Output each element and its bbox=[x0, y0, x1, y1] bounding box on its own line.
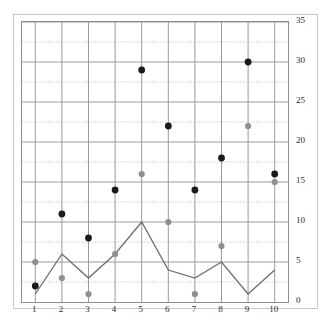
data-point-black bbox=[218, 155, 225, 162]
y-tick-label: 10 bbox=[296, 216, 305, 225]
data-point-gray bbox=[32, 259, 38, 265]
data-point-black bbox=[192, 187, 199, 194]
series-gray-markers-group bbox=[32, 123, 278, 297]
y-tick-label: 5 bbox=[296, 256, 301, 265]
data-point-gray bbox=[165, 219, 171, 225]
data-point-gray bbox=[139, 171, 145, 177]
data-point-black bbox=[85, 235, 92, 242]
data-point-black bbox=[59, 211, 66, 218]
data-point-black bbox=[165, 123, 172, 130]
y-tick-label: 30 bbox=[296, 56, 305, 65]
data-point-gray bbox=[218, 243, 224, 249]
data-point-black bbox=[245, 59, 252, 66]
data-point-gray bbox=[272, 179, 278, 185]
x-tick-label: 7 bbox=[186, 305, 202, 314]
data-point-gray bbox=[85, 291, 91, 297]
data-point-gray bbox=[245, 123, 251, 129]
x-tick-label: 6 bbox=[159, 305, 175, 314]
x-tick-label: 3 bbox=[80, 305, 96, 314]
y-tick-label: 20 bbox=[296, 136, 305, 145]
data-point-black bbox=[271, 171, 278, 178]
data-point-black bbox=[112, 187, 119, 194]
data-point-gray bbox=[192, 291, 198, 297]
y-tick-label: 15 bbox=[296, 176, 305, 185]
plot-area bbox=[21, 21, 289, 303]
data-point-black bbox=[138, 67, 145, 74]
series-black-markers-group bbox=[32, 59, 278, 290]
x-tick-label: 10 bbox=[266, 305, 282, 314]
series-gray-line bbox=[35, 222, 274, 294]
x-tick-label: 2 bbox=[53, 305, 69, 314]
y-tick-label: 25 bbox=[296, 96, 305, 105]
x-tick-label: 1 bbox=[26, 305, 42, 314]
x-tick-label: 5 bbox=[133, 305, 149, 314]
y-tick-label: 0 bbox=[296, 296, 301, 305]
y-tick-label: 35 bbox=[296, 16, 305, 25]
data-point-gray bbox=[112, 251, 118, 257]
plot-canvas bbox=[22, 22, 288, 302]
x-tick-label: 9 bbox=[239, 305, 255, 314]
chart-figure: 05101520253035 12345678910 bbox=[0, 0, 333, 336]
data-point-black bbox=[32, 283, 39, 290]
x-tick-label: 4 bbox=[106, 305, 122, 314]
data-point-gray bbox=[59, 275, 65, 281]
x-tick-label: 8 bbox=[213, 305, 229, 314]
